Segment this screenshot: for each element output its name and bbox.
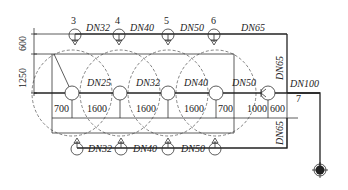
bottom-sprinkler-3 <box>162 138 174 155</box>
bottom-pipe-label-dn50: DN50 <box>180 143 205 154</box>
riser-upper-label: DN65 <box>274 56 285 81</box>
sprinkler-5 <box>162 29 174 45</box>
top-pipe-label-dn65: DN65 <box>240 22 265 33</box>
mid-pipe-label-dn32: DN32 <box>135 77 160 88</box>
dim-700-left: 700 <box>54 103 69 114</box>
main-pipe-label-dn100: DN100 <box>289 78 319 89</box>
dim-600: 600 <box>17 36 28 51</box>
bottom-pipe-label-dn32: DN32 <box>87 143 112 154</box>
mid-pipe-label-dn50: DN50 <box>231 77 256 88</box>
sprinkler-label-3: 3 <box>71 15 76 26</box>
sprinkler-label-4: 4 <box>115 15 120 26</box>
bottom-sprinkler-2 <box>115 138 127 155</box>
dim-1600-3: 1600 <box>184 103 204 114</box>
mid-pipe-label-dn40: DN40 <box>183 77 208 88</box>
diagram-svg: 600 1250 3 4 5 6 DN32 <box>0 0 348 190</box>
bottom-sprinkler-4 <box>209 138 221 155</box>
main-supply-pipe <box>287 93 320 168</box>
sprinkler-label-6: 6 <box>211 15 216 26</box>
sprinkler-6 <box>208 29 220 45</box>
vertical-dimension <box>31 28 37 96</box>
dim-700-right: 700 <box>218 103 233 114</box>
riser-target-icon <box>312 162 328 178</box>
dim-1600-1: 1600 <box>87 103 107 114</box>
node-label-7: 7 <box>296 93 301 104</box>
mid-pipe-label-dn25: DN25 <box>86 77 111 88</box>
dim-600-right: 600 <box>270 103 285 114</box>
sprinkler-4 <box>113 29 125 45</box>
sprinkler-label-5: 5 <box>164 15 169 26</box>
riser-lower-label: DN65 <box>274 121 285 146</box>
bottom-pipe-label-dn40: DN40 <box>132 143 157 154</box>
top-pipe-label-dn40: DN40 <box>129 22 154 33</box>
sprinkler-diagram: 600 1250 3 4 5 6 DN32 <box>0 0 348 190</box>
sprinkler-3 <box>69 29 81 45</box>
dim-1000: 1000 <box>247 103 267 114</box>
lower-outline <box>52 118 234 133</box>
dim-1600-2: 1600 <box>136 103 156 114</box>
dim-1250: 1250 <box>17 68 28 88</box>
bottom-sprinkler-1 <box>71 138 83 155</box>
top-pipe-label-dn32: DN32 <box>85 22 110 33</box>
top-pipe-label-dn50: DN50 <box>179 22 204 33</box>
